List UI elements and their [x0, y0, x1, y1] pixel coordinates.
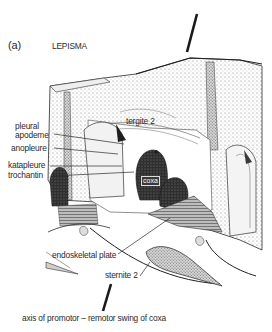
- label-sternite: sternite 2: [105, 270, 138, 280]
- axis-line-bottom: [103, 284, 111, 311]
- figure-title: LEPISMA: [52, 41, 87, 51]
- axis-line-top: [187, 14, 197, 52]
- label-tergite: tergite 2: [126, 116, 155, 126]
- sternite-spike: [146, 247, 222, 286]
- panel-label: (a): [8, 40, 21, 50]
- label-apodeme: apodeme: [15, 130, 49, 140]
- axis-caption: axis of promotor – remotor swing of coxa: [22, 313, 166, 323]
- label-endoskeletal-plate: endoskeletal plate: [52, 250, 116, 260]
- label-coxa: coxa: [141, 176, 160, 186]
- label-anopleure: anopleure: [11, 143, 47, 153]
- right-segment-arch: [226, 145, 256, 236]
- label-trochantin: trochantin: [8, 170, 43, 180]
